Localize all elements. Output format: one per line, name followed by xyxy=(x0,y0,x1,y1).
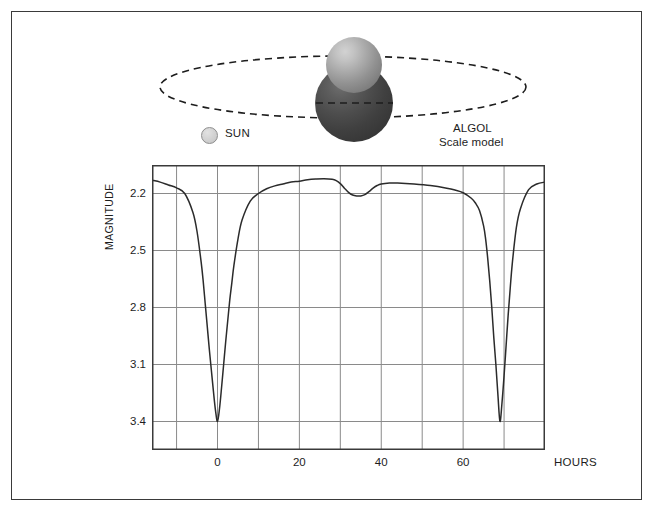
y-axis-tick-label: 2.2 xyxy=(114,187,146,199)
y-axis-tick-label: 3.1 xyxy=(114,358,146,370)
algol-caption: ALGOL Scale model xyxy=(439,122,503,149)
light-curve-plot xyxy=(152,165,545,450)
y-axis-label-holder: MAGNITUDE xyxy=(105,250,106,251)
x-axis-tick-label: 40 xyxy=(361,456,401,468)
x-axis-tick-label: 0 xyxy=(198,456,238,468)
sun-scale-icon xyxy=(201,127,218,144)
y-axis-tick-label: 3.4 xyxy=(114,415,146,427)
y-axis-ticks: 2.22.52.83.13.4 xyxy=(112,165,146,450)
algol-figure: SUN ALGOL Scale model 2.22.52.83.13.4 MA… xyxy=(0,0,655,519)
algol-subtitle: Scale model xyxy=(439,136,503,150)
sun-legend-label: SUN xyxy=(225,127,250,139)
y-axis-tick-label: 2.8 xyxy=(114,301,146,313)
x-axis-label: HOURS xyxy=(554,456,597,468)
algol-companion-sphere xyxy=(326,37,382,93)
y-axis-tick-label: 2.5 xyxy=(114,244,146,256)
y-axis-label: MAGNITUDE xyxy=(103,100,115,250)
x-axis-tick-label: 20 xyxy=(279,456,319,468)
algol-title: ALGOL xyxy=(439,122,503,136)
x-axis-ticks: 0204060HOURS xyxy=(152,456,612,476)
x-axis-tick-label: 60 xyxy=(443,456,483,468)
light-curve-svg xyxy=(152,165,545,450)
light-curve-line xyxy=(152,179,545,422)
